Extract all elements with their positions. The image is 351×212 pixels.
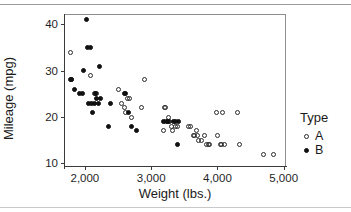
y-tick-label: 10 bbox=[45, 157, 58, 169]
x-tick bbox=[85, 166, 86, 170]
legend-item-b-label: B bbox=[315, 144, 323, 157]
data-point bbox=[237, 142, 242, 147]
legend-title: Type bbox=[300, 110, 348, 125]
y-tick-label: 40 bbox=[45, 18, 58, 30]
x-tick bbox=[151, 166, 152, 170]
data-point bbox=[188, 124, 193, 129]
data-point bbox=[199, 138, 204, 143]
scatter-plot-figure: 10203040 2,0003,0004,0005,000 Weight (lb… bbox=[0, 0, 351, 212]
data-point bbox=[214, 110, 219, 115]
data-point bbox=[235, 110, 240, 115]
y-axis-title: Mileage (mpg) bbox=[1, 22, 17, 175]
data-point bbox=[90, 110, 95, 115]
data-point bbox=[129, 115, 134, 120]
data-point bbox=[81, 68, 86, 73]
data-point bbox=[80, 91, 85, 96]
data-point bbox=[88, 73, 93, 78]
data-point bbox=[139, 105, 144, 110]
data-point bbox=[166, 119, 171, 124]
data-point bbox=[161, 128, 166, 133]
data-point bbox=[69, 77, 74, 82]
legend-item-a-label: A bbox=[315, 130, 323, 143]
data-point bbox=[220, 110, 225, 115]
data-point bbox=[129, 124, 134, 129]
y-tick-label: 30 bbox=[45, 65, 58, 77]
data-point bbox=[84, 17, 89, 22]
x-tick-label: 5,000 bbox=[269, 172, 298, 184]
x-tick-label: 2,000 bbox=[70, 172, 99, 184]
data-point bbox=[108, 101, 113, 106]
data-point bbox=[207, 142, 212, 147]
data-point bbox=[261, 152, 266, 157]
data-point bbox=[176, 119, 181, 124]
x-axis-title: Weight (lbs.) bbox=[64, 186, 286, 201]
y-tick bbox=[61, 71, 65, 72]
data-point bbox=[98, 96, 103, 101]
data-point bbox=[116, 87, 121, 92]
y-tick bbox=[61, 163, 65, 164]
x-axis-line bbox=[64, 166, 287, 167]
x-tick-label: 4,000 bbox=[203, 172, 232, 184]
legend-item-b[interactable]: B bbox=[300, 143, 348, 157]
legend: Type A B bbox=[300, 110, 348, 157]
data-point bbox=[215, 133, 220, 138]
data-point bbox=[271, 152, 276, 157]
data-point bbox=[202, 133, 207, 138]
data-points-layer bbox=[65, 15, 285, 166]
data-point bbox=[142, 77, 147, 82]
x-tick bbox=[284, 166, 285, 170]
data-point bbox=[134, 128, 139, 133]
plot-area: 10203040 2,0003,0004,0005,000 bbox=[64, 14, 286, 167]
data-point bbox=[68, 50, 73, 55]
x-tick-label: 3,000 bbox=[137, 172, 166, 184]
data-point bbox=[72, 87, 77, 92]
data-point bbox=[88, 45, 93, 50]
data-point bbox=[175, 142, 180, 147]
legend-item-a[interactable]: A bbox=[300, 129, 348, 143]
y-tick bbox=[61, 24, 65, 25]
data-point bbox=[163, 105, 168, 110]
data-point bbox=[96, 101, 101, 106]
y-tick-label: 20 bbox=[45, 111, 58, 123]
data-point bbox=[97, 64, 102, 69]
x-tick bbox=[217, 166, 218, 170]
data-point bbox=[222, 142, 227, 147]
data-point bbox=[127, 96, 132, 101]
data-point bbox=[126, 110, 131, 115]
data-point bbox=[175, 124, 180, 129]
data-point bbox=[106, 124, 111, 129]
open-circle-icon bbox=[304, 134, 309, 139]
y-tick bbox=[61, 117, 65, 118]
filled-circle-icon bbox=[304, 148, 309, 153]
data-point bbox=[170, 128, 175, 133]
